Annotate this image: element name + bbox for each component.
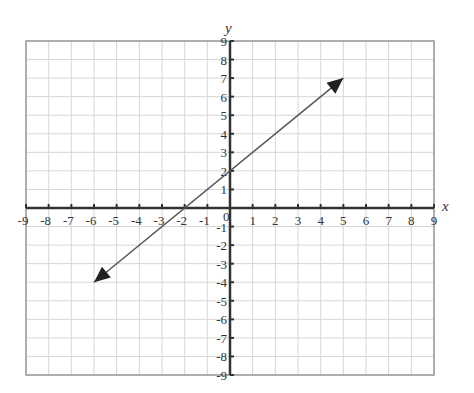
x-tick-label: 5 (340, 213, 347, 228)
x-tick-label: -2 (176, 213, 187, 228)
x-tick-label: 6 (363, 213, 370, 228)
y-tick-label: 3 (221, 145, 228, 160)
y-tick-label: 4 (221, 127, 228, 142)
x-tick-label: 8 (408, 213, 415, 228)
y-tick-label: -8 (216, 349, 227, 364)
x-axis-label: x (441, 198, 449, 214)
y-tick-label: -7 (216, 331, 227, 346)
y-tick-label: 5 (221, 108, 228, 123)
origin-label: 0 (223, 209, 230, 224)
y-axis-label: y (223, 20, 232, 36)
y-tick-label: 9 (221, 34, 228, 49)
x-tick-label: -1 (199, 213, 210, 228)
y-tick-label: -2 (216, 238, 227, 253)
y-tick-label: 7 (221, 71, 228, 86)
y-tick-label: 1 (221, 182, 228, 197)
x-tick-label: -5 (108, 213, 119, 228)
x-tick-label: 1 (249, 213, 256, 228)
y-tick-label: 6 (221, 90, 228, 105)
y-tick-label: 8 (221, 53, 228, 68)
x-tick-label: 7 (385, 213, 392, 228)
coordinate-plane: -9-8-7-6-5-4-3-2-1123456789987654321-1-2… (0, 0, 474, 393)
arrowhead-down-left-icon (94, 267, 111, 283)
y-tick-label: -3 (216, 257, 227, 272)
y-tick-label: -5 (216, 294, 227, 309)
x-tick-label: -9 (18, 213, 29, 228)
x-tick-label: -4 (131, 213, 142, 228)
x-tick-label: 2 (272, 213, 279, 228)
x-tick-label: 3 (295, 213, 302, 228)
y-tick-label: -4 (216, 275, 227, 290)
x-tick-label: -6 (86, 213, 97, 228)
axes (26, 41, 434, 375)
x-tick-label: -8 (40, 213, 51, 228)
x-tick-label: -7 (63, 213, 74, 228)
y-tick-label: -6 (216, 312, 227, 327)
arrowhead-up-right-icon (327, 78, 344, 94)
x-tick-label: 4 (317, 213, 324, 228)
x-tick-label: 9 (431, 213, 438, 228)
y-tick-label: -9 (216, 368, 227, 383)
